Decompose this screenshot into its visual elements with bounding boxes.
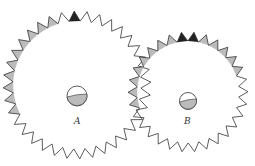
gear-tooth-shade bbox=[209, 40, 218, 51]
gear-a bbox=[3, 11, 151, 159]
gear-a-label: A bbox=[73, 116, 81, 126]
gear-outline bbox=[3, 11, 151, 159]
gear-tooth-shade bbox=[226, 57, 237, 67]
gear-tooth-shade bbox=[69, 11, 80, 21]
gear-diagram: A B bbox=[0, 0, 255, 166]
gear-tooth-shade bbox=[139, 57, 150, 67]
gear-tooth-shade bbox=[128, 87, 137, 98]
gear-tooth-shade bbox=[158, 40, 167, 51]
gear-tooth-shade bbox=[38, 22, 48, 34]
gear-tooth-shade bbox=[3, 82, 13, 93]
gear-b-label: B bbox=[183, 116, 191, 126]
